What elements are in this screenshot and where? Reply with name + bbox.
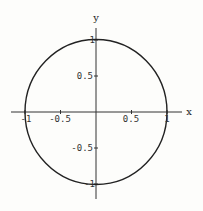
- y-tick-label: -0.5: [71, 143, 93, 153]
- x-axis-label: x: [186, 106, 192, 117]
- y-tick-label: 1: [90, 35, 95, 45]
- x-tick-label: -1: [21, 114, 32, 124]
- x-tick-label: 0.5: [123, 114, 139, 124]
- x-tick-label: -0.5: [49, 114, 71, 124]
- y-tick-label: -1: [84, 179, 95, 189]
- y-tick-label: 0.5: [77, 71, 93, 81]
- y-axis-label: y: [92, 12, 99, 23]
- plot-area: y x -1 -0.5 0.5 1 1 0.5 -0.5 -1: [0, 0, 203, 211]
- x-tick-label: 1: [164, 114, 169, 124]
